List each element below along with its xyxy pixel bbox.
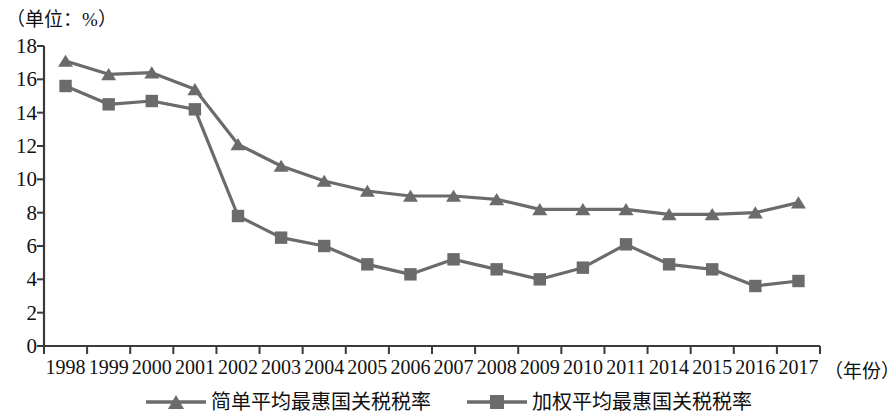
- x-axis-tick-label: 2003: [261, 356, 301, 378]
- data-point-marker-square: [663, 258, 675, 270]
- data-point-marker-square: [232, 210, 244, 222]
- x-axis-tick-label: 2000: [132, 356, 172, 378]
- data-point-marker-square: [404, 268, 416, 280]
- data-point-marker-square: [447, 253, 459, 265]
- y-axis-tick-label: 18: [16, 36, 37, 57]
- data-point-marker-square: [146, 95, 158, 107]
- data-point-marker-square: [361, 258, 373, 270]
- x-axis-title: （年份）: [824, 356, 896, 383]
- legend-label: 加权平均最惠国关税税率: [532, 392, 752, 412]
- x-axis-tick-label: 2007: [434, 356, 474, 378]
- y-axis-tick-label: 2: [27, 302, 38, 323]
- chart-legend: 简单平均最惠国关税税率加权平均最惠国关税税率: [0, 392, 896, 412]
- data-point-marker-triangle: [274, 160, 289, 172]
- series-line-1: [66, 61, 799, 214]
- x-axis-tick-label: 2009: [520, 356, 560, 378]
- data-point-marker-square: [577, 261, 589, 273]
- legend-marker: [490, 395, 504, 409]
- x-axis-tick-label: 2004: [304, 356, 344, 378]
- plot-area: 024681012141618: [44, 46, 820, 346]
- legend-item-2: 加权平均最惠国关税税率: [465, 392, 752, 412]
- x-axis-tick-label: 2005: [347, 356, 387, 378]
- y-axis-tick-label: 10: [16, 169, 37, 190]
- x-axis-tick-label: 2002: [218, 356, 258, 378]
- x-axis-tick-label: 2016: [735, 356, 775, 378]
- legend-label: 简单平均最惠国关税税率: [211, 392, 431, 412]
- y-axis-unit-label: （单位：%）: [6, 4, 117, 31]
- x-axis-tick-label: 2006: [390, 356, 430, 378]
- tariff-line-chart: （单位：%） 024681012141618 19981999200020012…: [0, 0, 896, 417]
- x-axis-tick-label: 2011: [606, 356, 645, 378]
- data-point-marker-square: [102, 98, 114, 110]
- data-point-marker-square: [189, 103, 201, 115]
- y-axis-tick-label: 8: [27, 202, 38, 223]
- x-axis-tick-label: 2014: [649, 356, 689, 378]
- plot-svg: [44, 46, 820, 346]
- data-point-marker-square: [620, 238, 632, 250]
- x-axis-tick-label: 2017: [778, 356, 818, 378]
- data-point-marker-triangle: [58, 55, 73, 67]
- x-axis-tick-label: 1998: [46, 356, 86, 378]
- y-axis-tick-label: 4: [27, 269, 38, 290]
- y-axis-tick-label: 6: [27, 236, 38, 257]
- legend-item-1: 简单平均最惠国关税税率: [144, 392, 431, 412]
- data-point-marker-square: [318, 240, 330, 252]
- y-axis-tick-label: 12: [16, 136, 37, 157]
- y-axis-tick-label: 14: [16, 102, 37, 123]
- x-axis-tick-label: 2015: [692, 356, 732, 378]
- data-point-marker-square: [706, 263, 718, 275]
- data-point-marker-square: [534, 273, 546, 285]
- data-point-marker-square: [59, 80, 71, 92]
- x-axis-tick-label: 2010: [563, 356, 603, 378]
- legend-square-icon: [465, 392, 529, 412]
- legend-triangle-icon: [144, 392, 208, 412]
- x-axis-tick-label: 2001: [175, 356, 215, 378]
- x-axis-tick-label: 1999: [89, 356, 129, 378]
- data-point-marker-triangle: [187, 83, 202, 95]
- x-axis-tick-labels: 1998199920002001200220032004200520062007…: [44, 356, 820, 386]
- series-line-2: [66, 86, 799, 286]
- data-point-marker-square: [490, 263, 502, 275]
- data-point-marker-square: [792, 275, 804, 287]
- y-axis-tick-label: 0: [27, 336, 38, 357]
- y-axis-tick-label: 16: [16, 69, 37, 90]
- x-axis-tick-label: 2008: [477, 356, 517, 378]
- data-point-marker-square: [275, 231, 287, 243]
- data-point-marker-square: [749, 280, 761, 292]
